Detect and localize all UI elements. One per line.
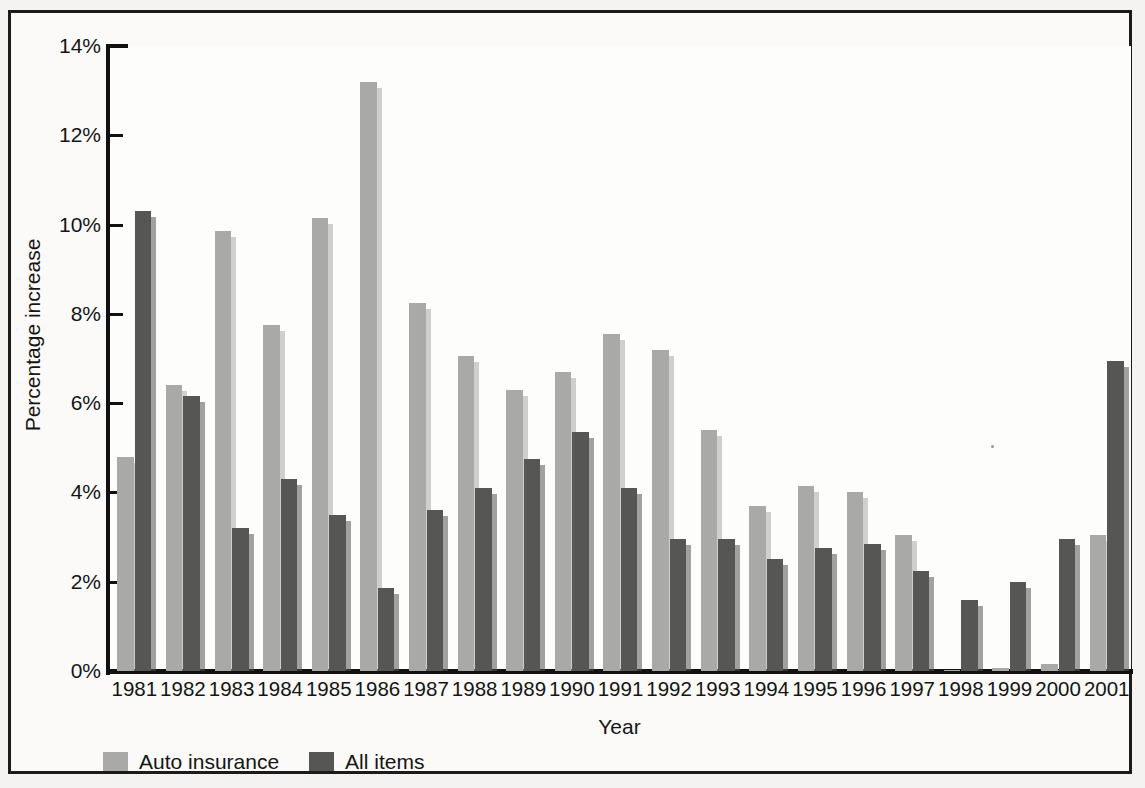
- bar: [895, 535, 912, 671]
- x-axis-tick-label: 2000: [1034, 679, 1083, 700]
- y-axis-tick-label: 0%: [39, 660, 101, 681]
- bar-group: [256, 46, 305, 671]
- x-axis-tick-label: 1984: [256, 679, 305, 700]
- bar: [409, 303, 426, 671]
- bar-group: [450, 46, 499, 671]
- bar-face: [749, 506, 766, 671]
- x-axis-tick-labels: 1981198219831984198519861987198819891990…: [110, 679, 1131, 709]
- x-axis-tick-label: 1999: [985, 679, 1034, 700]
- bar: [117, 457, 134, 671]
- legend-swatch: [309, 752, 334, 771]
- x-axis-title: Year: [108, 715, 1131, 739]
- bar: [621, 488, 638, 671]
- y-axis-tick-label: 8%: [39, 303, 101, 324]
- figure-frame: 0%2%4%6%8%10%12%14% Percentage increase …: [8, 10, 1132, 774]
- bar: [1059, 539, 1076, 671]
- bar-face: [992, 668, 1009, 671]
- bar-face: [944, 670, 961, 671]
- legend-swatch: [103, 752, 128, 771]
- bar: [652, 350, 669, 671]
- y-axis-tick-label: 6%: [39, 392, 101, 413]
- bar: [360, 82, 377, 671]
- bar: [263, 325, 280, 671]
- bar-group: [839, 46, 888, 671]
- chart-legend: Auto insuranceAll items: [103, 751, 436, 772]
- bar-group: [110, 46, 159, 671]
- bar: [670, 539, 687, 671]
- bar-face: [1090, 535, 1107, 671]
- bar-face: [329, 515, 346, 671]
- bar: [913, 571, 930, 671]
- bar: [281, 479, 298, 671]
- bar: [1107, 361, 1124, 671]
- bar-series-container: [110, 46, 1131, 671]
- bar-face: [652, 350, 669, 671]
- x-axis-tick-label: 2001: [1082, 679, 1131, 700]
- bar-group: [742, 46, 791, 671]
- legend-entry[interactable]: All items: [309, 751, 424, 772]
- bar-face: [815, 548, 832, 671]
- y-axis-tick-label: 4%: [39, 481, 101, 502]
- bar-group: [548, 46, 597, 671]
- bar-group: [1082, 46, 1131, 671]
- bar: [524, 459, 541, 671]
- bar-group: [985, 46, 1034, 671]
- bar: [961, 600, 978, 671]
- bar: [1010, 582, 1027, 671]
- bar-face: [117, 457, 134, 671]
- bar: [166, 385, 183, 671]
- bar-face: [360, 82, 377, 671]
- bar-face: [409, 303, 426, 671]
- x-axis-tick-label: 1986: [353, 679, 402, 700]
- x-axis-tick-label: 1982: [159, 679, 208, 700]
- x-axis-tick-label: 1996: [839, 679, 888, 700]
- bar: [506, 390, 523, 671]
- bar-face: [701, 430, 718, 671]
- bar-face: [232, 528, 249, 671]
- bar: [603, 334, 620, 671]
- bar: [701, 430, 718, 671]
- bar: [475, 488, 492, 671]
- x-axis-tick-label: 1992: [645, 679, 694, 700]
- bar: [378, 588, 395, 671]
- y-axis-title: Percentage increase: [21, 100, 45, 570]
- x-axis-tick-label: 1995: [791, 679, 840, 700]
- bar: [944, 670, 961, 671]
- bar: [767, 559, 784, 671]
- bar-face: [847, 492, 864, 671]
- bar-group: [693, 46, 742, 671]
- bar: [329, 515, 346, 671]
- bar-group: [888, 46, 937, 671]
- bar-face: [475, 488, 492, 671]
- bar-face: [798, 486, 815, 671]
- bar-face: [281, 479, 298, 671]
- bar: [749, 506, 766, 671]
- bar: [1090, 535, 1107, 671]
- bar: [864, 544, 881, 671]
- bar-face: [378, 588, 395, 671]
- x-axis-tick-label: 1997: [888, 679, 937, 700]
- legend-entry[interactable]: Auto insurance: [103, 751, 279, 772]
- y-axis-tick-label: 12%: [39, 124, 101, 145]
- bar-face: [166, 385, 183, 671]
- x-axis-tick-label: 1991: [596, 679, 645, 700]
- bar-face: [961, 600, 978, 671]
- bar-face: [427, 510, 444, 671]
- bar-face: [135, 211, 152, 671]
- bar-group: [937, 46, 986, 671]
- bar-face: [864, 544, 881, 671]
- bar-face: [895, 535, 912, 671]
- bar: [815, 548, 832, 671]
- bar: [798, 486, 815, 671]
- y-axis-tick-label: 10%: [39, 214, 101, 235]
- bar: [232, 528, 249, 671]
- x-axis-tick-label: 1993: [693, 679, 742, 700]
- bar-group: [207, 46, 256, 671]
- x-axis-tick-label: 1987: [402, 679, 451, 700]
- bar: [847, 492, 864, 671]
- bar-group: [645, 46, 694, 671]
- x-axis-tick-label: 1994: [742, 679, 791, 700]
- bar-face: [1107, 361, 1124, 671]
- bar-group: [304, 46, 353, 671]
- bar-face: [263, 325, 280, 671]
